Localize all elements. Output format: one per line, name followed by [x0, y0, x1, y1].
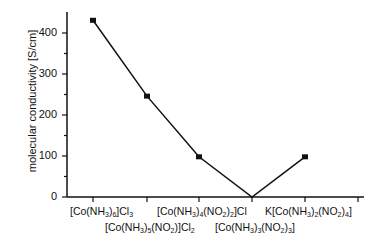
x-tick-label-4: [Co(NH3)3(NO2)3] — [215, 221, 295, 234]
x-tick-label-3: [Co(NH3)4(NO2)2]Cl — [157, 205, 247, 218]
y-tick-label: 300 — [27, 67, 57, 79]
x-tick-label-5: K[Co(NH3)2(NO2)4] — [265, 205, 352, 218]
y-tick-label: 400 — [27, 26, 57, 38]
data-point-marker — [144, 94, 150, 99]
data-point-marker — [196, 154, 202, 159]
data-point-marker — [302, 154, 308, 159]
data-point-marker — [90, 18, 96, 23]
x-tick-label-1: [Co(NH3)6]Cl3 — [70, 205, 133, 218]
x-tick-label-2: [Co(NH3)5(NO2)]Cl2 — [105, 221, 195, 234]
y-axis-label: molecular conductivity [S/cm] — [26, 11, 38, 191]
y-tick-label: 0 — [27, 190, 57, 202]
series-line — [93, 20, 305, 197]
y-tick-label: 200 — [27, 108, 57, 120]
y-tick-label: 100 — [27, 149, 57, 161]
